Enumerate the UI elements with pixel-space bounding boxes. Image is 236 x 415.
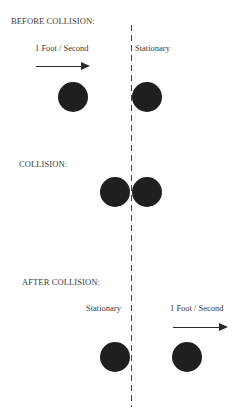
reference-dashed-line	[131, 25, 132, 407]
collision-right-ball	[132, 177, 162, 207]
collision-heading: COLLISION:	[19, 159, 67, 169]
after-stationary-label: Stationary	[86, 303, 121, 313]
before-moving-ball	[58, 82, 88, 112]
collision-left-ball	[100, 177, 130, 207]
after-stationary-ball	[100, 342, 130, 372]
before-moving-speed-label: 1 Foot / Second	[35, 43, 89, 53]
before-collision-heading: BEFORE COLLISION:	[11, 16, 95, 26]
before-right-arrow-icon	[36, 66, 88, 67]
before-stationary-label: Stationary	[135, 43, 170, 53]
after-moving-ball	[172, 342, 202, 372]
after-right-arrow-icon	[173, 327, 226, 328]
before-stationary-ball	[132, 82, 162, 112]
after-moving-speed-label: 1 Foot / Second	[170, 303, 224, 313]
after-collision-heading: AFTER COLLISION:	[22, 277, 100, 287]
